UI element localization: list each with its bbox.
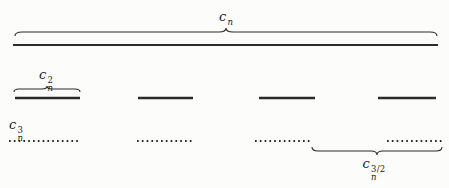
figure: cn c2n c3n c3/2n xyxy=(0,0,449,188)
label-cn-squared: c2n xyxy=(39,68,53,92)
label-cn: cn xyxy=(219,10,233,26)
label-cn-three-halves-scripts: 3/2n xyxy=(371,165,385,181)
label-cn-three-halves-base: c xyxy=(363,156,370,171)
label-cn-scripts: n xyxy=(227,18,233,26)
label-cn-cubed-scripts: 3n xyxy=(17,126,23,142)
label-cn-cubed: c3n xyxy=(9,118,23,142)
label-cn-squared-sub: n xyxy=(47,84,53,92)
cn-overbrace xyxy=(15,28,437,36)
label-cn-sub: n xyxy=(227,18,233,26)
label-cn-three-halves: c3/2n xyxy=(363,157,386,181)
label-cn-three-halves-sub: n xyxy=(371,173,385,181)
label-cn-cubed-base: c xyxy=(9,117,16,132)
label-cn-squared-base: c xyxy=(39,67,46,82)
label-cn-cubed-sub: n xyxy=(17,134,23,142)
label-cn-base: c xyxy=(219,9,226,24)
label-cn-squared-scripts: 2n xyxy=(47,76,53,92)
cn32-underbrace xyxy=(312,147,442,155)
